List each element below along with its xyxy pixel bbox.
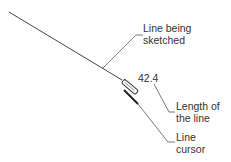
label-line-1: Line xyxy=(176,131,205,143)
label-line-being-sketched: Line being sketched xyxy=(143,22,191,46)
label-line-2: the line xyxy=(176,112,220,124)
label-line-1: Length of xyxy=(176,100,220,112)
sketched-line xyxy=(9,12,122,80)
label-line-1: Line being xyxy=(143,22,191,34)
label-line-2: cursor xyxy=(176,143,205,155)
label-length-of-line: Length of the line xyxy=(176,100,220,124)
label-line-2: sketched xyxy=(143,34,191,46)
label-line-cursor: Line cursor xyxy=(176,131,205,155)
leader-line-cursor xyxy=(138,104,175,142)
leader-line-being-sketched xyxy=(103,35,143,68)
pencil-icon xyxy=(121,79,138,94)
dimension-value: 42.4 xyxy=(138,72,158,84)
leader-length xyxy=(154,84,175,112)
